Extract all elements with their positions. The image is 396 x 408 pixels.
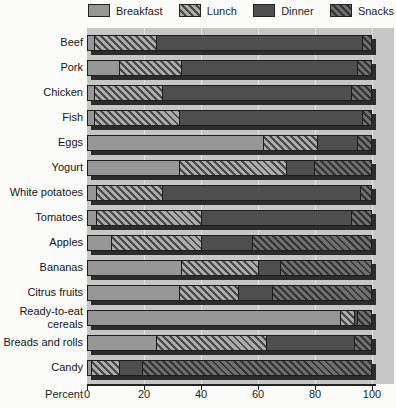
chart-legend: BreakfastLunchDinnerSnacks bbox=[88, 4, 394, 17]
legend-swatch-snacks bbox=[330, 4, 352, 17]
bar-track bbox=[87, 260, 372, 276]
segment-lunch bbox=[94, 86, 162, 100]
segment-lunch bbox=[179, 161, 287, 175]
bar-track bbox=[87, 185, 372, 201]
category-label: White potatoes bbox=[0, 186, 87, 198]
legend-swatch-lunch bbox=[179, 4, 201, 17]
stacked-bar bbox=[87, 335, 372, 351]
segment-snacks bbox=[314, 161, 371, 175]
segment-snacks bbox=[357, 61, 371, 75]
segment-dinner bbox=[156, 36, 363, 50]
segment-snacks bbox=[357, 311, 371, 325]
category-label: Bananas bbox=[0, 261, 87, 273]
bar-track bbox=[87, 35, 372, 51]
segment-dinner bbox=[179, 111, 363, 125]
segment-lunch bbox=[179, 286, 238, 300]
axis-tick-label-20: 20 bbox=[138, 388, 150, 400]
bar-row-apples: Apples bbox=[0, 230, 396, 255]
x-axis-title: Percent bbox=[45, 388, 83, 400]
category-label: Yogurt bbox=[0, 161, 87, 173]
stacked-bar-chart: BreakfastLunchDinnerSnacks BeefPorkChick… bbox=[0, 0, 396, 408]
segment-lunch bbox=[94, 111, 179, 125]
category-label: Beef bbox=[0, 36, 87, 48]
segment-snacks bbox=[280, 261, 371, 275]
bar-track bbox=[87, 310, 372, 326]
category-label: Pork bbox=[0, 61, 87, 73]
segment-lunch bbox=[111, 236, 202, 250]
stacked-bar bbox=[87, 110, 372, 126]
segment-dinner bbox=[317, 136, 357, 150]
segment-dinner bbox=[258, 261, 281, 275]
segment-breakfast bbox=[88, 236, 111, 250]
segment-snacks bbox=[362, 36, 370, 50]
segment-lunch bbox=[263, 136, 317, 150]
segment-dinner bbox=[201, 236, 252, 250]
bar-rows: BeefPorkChickenFishEggsYogurtWhite potat… bbox=[0, 30, 396, 380]
stacked-bar bbox=[87, 260, 372, 276]
segment-lunch bbox=[91, 361, 119, 375]
segment-snacks bbox=[354, 336, 371, 350]
legend-label: Snacks bbox=[358, 5, 394, 17]
segment-dinner bbox=[238, 286, 272, 300]
segment-breakfast bbox=[88, 186, 96, 200]
segment-snacks bbox=[252, 236, 371, 250]
stacked-bar bbox=[87, 210, 372, 226]
bar-track bbox=[87, 160, 372, 176]
chart-plot: BeefPorkChickenFishEggsYogurtWhite potat… bbox=[0, 28, 396, 386]
category-label: Fish bbox=[0, 111, 87, 123]
segment-snacks bbox=[351, 86, 371, 100]
stacked-bar bbox=[87, 285, 372, 301]
legend-item-lunch: Lunch bbox=[179, 4, 237, 17]
segment-snacks bbox=[357, 136, 371, 150]
bar-row-tomatoes: Tomatoes bbox=[0, 205, 396, 230]
segment-breakfast bbox=[88, 61, 119, 75]
segment-snacks bbox=[362, 111, 370, 125]
axis-tick-label-60: 60 bbox=[252, 388, 264, 400]
segment-breakfast bbox=[88, 161, 179, 175]
segment-breakfast bbox=[88, 136, 263, 150]
stacked-bar bbox=[87, 85, 372, 101]
stacked-bar bbox=[87, 160, 372, 176]
segment-lunch bbox=[340, 311, 354, 325]
bar-track bbox=[87, 210, 372, 226]
segment-dinner bbox=[162, 86, 352, 100]
segment-lunch bbox=[119, 61, 181, 75]
segment-dinner bbox=[286, 161, 314, 175]
bar-row-beef: Beef bbox=[0, 30, 396, 55]
segment-lunch bbox=[96, 186, 161, 200]
legend-swatch-dinner bbox=[253, 4, 275, 17]
category-label: Ready-to-eat cereals bbox=[0, 305, 87, 329]
bar-row-breads-and-rolls: Breads and rolls bbox=[0, 330, 396, 355]
bar-track bbox=[87, 360, 372, 376]
segment-snacks bbox=[351, 211, 371, 225]
bar-row-pork: Pork bbox=[0, 55, 396, 80]
legend-label: Dinner bbox=[281, 5, 313, 17]
bar-row-citrus-fruits: Citrus fruits bbox=[0, 280, 396, 305]
stacked-bar bbox=[87, 310, 372, 326]
segment-dinner bbox=[266, 336, 354, 350]
segment-dinner bbox=[162, 186, 360, 200]
stacked-bar bbox=[87, 360, 372, 376]
bar-track bbox=[87, 85, 372, 101]
bar-row-chicken: Chicken bbox=[0, 80, 396, 105]
category-label: Citrus fruits bbox=[0, 286, 87, 298]
bar-track bbox=[87, 235, 372, 251]
legend-item-breakfast: Breakfast bbox=[88, 4, 162, 17]
x-axis-labels: Percent 020406080100 bbox=[0, 388, 396, 404]
bar-track bbox=[87, 135, 372, 151]
segment-lunch bbox=[94, 36, 156, 50]
legend-swatch-breakfast bbox=[88, 4, 110, 17]
category-label: Breads and rolls bbox=[0, 336, 87, 348]
segment-breakfast bbox=[88, 286, 179, 300]
axis-tick-label-0: 0 bbox=[84, 388, 90, 400]
axis-tick-label-100: 100 bbox=[363, 388, 381, 400]
segment-breakfast bbox=[88, 261, 181, 275]
legend-item-dinner: Dinner bbox=[253, 4, 313, 17]
stacked-bar bbox=[87, 60, 372, 76]
legend-label: Lunch bbox=[207, 5, 237, 17]
bar-row-white-potatoes: White potatoes bbox=[0, 180, 396, 205]
stacked-bar bbox=[87, 185, 372, 201]
bar-track bbox=[87, 285, 372, 301]
category-label: Apples bbox=[0, 236, 87, 248]
category-label: Tomatoes bbox=[0, 211, 87, 223]
